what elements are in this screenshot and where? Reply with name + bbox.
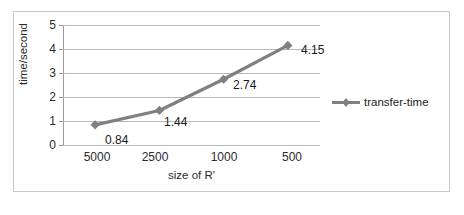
chart-figure: 5 4 3 2 1 0 time/second 0.84 1.44 2.74 4…: [0, 0, 464, 215]
x-tick-label: 2500: [125, 150, 185, 164]
plot-area: 0.84 1.44 2.74 4.15: [63, 25, 320, 145]
y-tick-label: 1: [38, 115, 56, 127]
y-tick-label: 3: [38, 67, 56, 79]
y-axis-title: time/second: [17, 9, 29, 99]
x-axis-tick-labels: 5000 2500 1000 500: [63, 150, 320, 166]
data-point-marker: [91, 120, 100, 129]
y-axis-tick-labels: 5 4 3 2 1 0: [36, 0, 56, 215]
x-tick-label: 1000: [194, 150, 254, 164]
y-tick-label: 0: [38, 139, 56, 151]
point-label: 1.44: [164, 116, 187, 128]
x-tick-label: 500: [262, 150, 322, 164]
point-label: 0.84: [105, 134, 128, 146]
point-label: 2.74: [233, 79, 256, 91]
y-tick-label: 5: [38, 19, 56, 31]
x-tick-label: 5000: [67, 150, 127, 164]
x-axis-title: size of R': [63, 168, 320, 182]
y-tick-label: 4: [38, 43, 56, 55]
series-transfer-time: [63, 25, 320, 145]
series-markers: [91, 41, 293, 130]
y-tick-label: 2: [38, 91, 56, 103]
series-line: [95, 45, 288, 124]
legend-marker-icon: [332, 97, 360, 108]
point-label: 4.15: [301, 44, 324, 56]
chart-legend: transfer-time: [332, 96, 429, 108]
legend-label: transfer-time: [364, 96, 429, 108]
gridline: [63, 145, 320, 146]
